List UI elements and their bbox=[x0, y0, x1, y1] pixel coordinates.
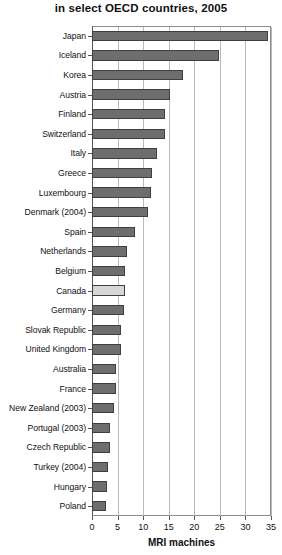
bar-row: Australia bbox=[0, 359, 282, 379]
category-label: Portugal (2003) bbox=[0, 423, 86, 433]
bar-row: Switzerland bbox=[0, 124, 282, 144]
x-axis-tick-mark bbox=[271, 516, 272, 520]
bar bbox=[92, 109, 165, 120]
bar-row: Iceland bbox=[0, 46, 282, 66]
bar bbox=[92, 168, 152, 179]
category-label: Austria bbox=[0, 90, 86, 100]
bar bbox=[92, 442, 110, 453]
category-label: Finland bbox=[0, 109, 86, 119]
bar-row: Finland bbox=[0, 104, 282, 124]
bar-row: Czech Republic bbox=[0, 438, 282, 458]
bar-row: Korea bbox=[0, 65, 282, 85]
category-label: Germany bbox=[0, 305, 86, 315]
mri-machines-bar-chart: in select OECD countries, 2005 JapanIcel… bbox=[0, 0, 282, 555]
category-label: Spain bbox=[0, 227, 86, 237]
bar-row: Luxembourg bbox=[0, 183, 282, 203]
category-label: Belgium bbox=[0, 266, 86, 276]
bar bbox=[92, 462, 108, 473]
category-label: United Kingdom bbox=[0, 344, 86, 354]
x-axis-tick-label: 35 bbox=[256, 522, 282, 532]
x-axis-tick-mark bbox=[194, 516, 195, 520]
x-axis-tick-mark bbox=[92, 516, 93, 520]
bar-row: Hungary bbox=[0, 477, 282, 497]
bar-row: Germany bbox=[0, 300, 282, 320]
x-axis-tick-labels: 05101520253035 bbox=[0, 522, 282, 536]
category-label: Czech Republic bbox=[0, 442, 86, 452]
bar-row: Italy bbox=[0, 144, 282, 164]
bar bbox=[92, 31, 268, 42]
bar bbox=[92, 207, 148, 218]
bar bbox=[92, 187, 151, 198]
bar-row: Turkey (2004) bbox=[0, 457, 282, 477]
bar bbox=[92, 344, 121, 355]
bar bbox=[92, 266, 125, 277]
bar bbox=[92, 227, 135, 238]
bar bbox=[92, 89, 170, 100]
bar bbox=[92, 305, 124, 316]
category-label: Slovak Republic bbox=[0, 325, 86, 335]
x-axis-tick-mark bbox=[143, 516, 144, 520]
bar-row: Greece bbox=[0, 163, 282, 183]
bar-row: United Kingdom bbox=[0, 340, 282, 360]
bar bbox=[92, 481, 107, 492]
category-label: Australia bbox=[0, 364, 86, 374]
bar-row: Belgium bbox=[0, 261, 282, 281]
bar bbox=[92, 364, 116, 375]
category-label: Japan bbox=[0, 31, 86, 41]
category-label: Switzerland bbox=[0, 129, 86, 139]
bar-rows: JapanIcelandKoreaAustriaFinlandSwitzerla… bbox=[0, 26, 282, 516]
bar-row: Netherlands bbox=[0, 242, 282, 262]
category-label: Turkey (2004) bbox=[0, 462, 86, 472]
chart-title: in select OECD countries, 2005 bbox=[0, 2, 282, 14]
bar bbox=[92, 325, 121, 336]
bar bbox=[92, 148, 157, 159]
category-label: Hungary bbox=[0, 482, 86, 492]
category-label: France bbox=[0, 384, 86, 394]
bar-row: France bbox=[0, 379, 282, 399]
category-label: Poland bbox=[0, 501, 86, 511]
bar-row: Spain bbox=[0, 222, 282, 242]
bar bbox=[92, 129, 165, 140]
x-axis-tick-mark bbox=[118, 516, 119, 520]
bar-row: Slovak Republic bbox=[0, 320, 282, 340]
bar-row: Poland bbox=[0, 496, 282, 516]
bar bbox=[92, 70, 183, 81]
category-label: Denmark (2004) bbox=[0, 207, 86, 217]
bar-row: Portugal (2003) bbox=[0, 418, 282, 438]
category-label: Italy bbox=[0, 148, 86, 158]
bar-row: Canada bbox=[0, 281, 282, 301]
x-axis-title: MRI machines bbox=[92, 537, 271, 548]
bar-row: Denmark (2004) bbox=[0, 202, 282, 222]
category-label: Luxembourg bbox=[0, 188, 86, 198]
bar bbox=[92, 403, 114, 414]
bar-row: Japan bbox=[0, 26, 282, 46]
bar bbox=[92, 423, 110, 434]
category-label: Canada bbox=[0, 286, 86, 296]
category-label: Iceland bbox=[0, 50, 86, 60]
category-label: Korea bbox=[0, 70, 86, 80]
x-axis-tick-mark bbox=[169, 516, 170, 520]
bar bbox=[92, 50, 219, 61]
bar bbox=[92, 246, 127, 257]
bar bbox=[92, 501, 106, 512]
bar-row: New Zealand (2003) bbox=[0, 398, 282, 418]
category-label: Netherlands bbox=[0, 246, 86, 256]
bar bbox=[92, 383, 116, 394]
x-axis-tick-mark bbox=[245, 516, 246, 520]
category-label: Greece bbox=[0, 168, 86, 178]
bar-highlighted bbox=[92, 285, 125, 296]
x-axis-tick-mark bbox=[220, 516, 221, 520]
category-label: New Zealand (2003) bbox=[0, 403, 86, 413]
bar-row: Austria bbox=[0, 85, 282, 105]
